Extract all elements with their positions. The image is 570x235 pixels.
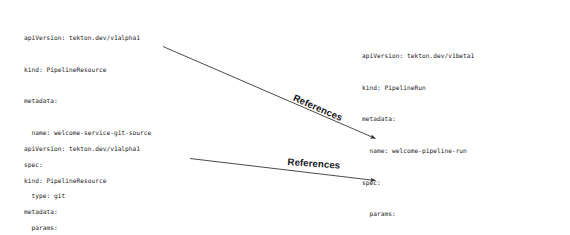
diagram-canvas: apiVersion: tekton.dev/v1alpha1 kind: Pi… <box>0 0 570 235</box>
reference-label-app-source: References <box>292 92 345 123</box>
yaml-line: apiVersion: tekton.dev/v1alpha1 <box>24 144 271 155</box>
reference-label-gitops-source: References <box>287 156 340 171</box>
yaml-block-pipeline-run: apiVersion: tekton.dev/v1beta1 kind: Pip… <box>362 30 538 235</box>
yaml-line: metadata: <box>24 207 271 218</box>
yaml-line: name: welcome-pipeline-run <box>362 146 538 157</box>
yaml-line: kind: PipelineRun <box>362 83 538 94</box>
yaml-line: kind: PipelineResource <box>24 65 271 76</box>
yaml-line: metadata: <box>362 114 538 125</box>
yaml-line: apiVersion: tekton.dev/v1beta1 <box>362 51 538 62</box>
yaml-line: metadata: <box>24 96 271 107</box>
yaml-line: params: <box>362 209 538 220</box>
yaml-line: kind: PipelineResource <box>24 176 271 187</box>
yaml-block-pipeline-resource-gitops-source: apiVersion: tekton.dev/v1alpha1 kind: Pi… <box>24 123 271 235</box>
yaml-line: spec: <box>362 178 538 189</box>
yaml-line: apiVersion: tekton.dev/v1alpha1 <box>24 33 271 44</box>
